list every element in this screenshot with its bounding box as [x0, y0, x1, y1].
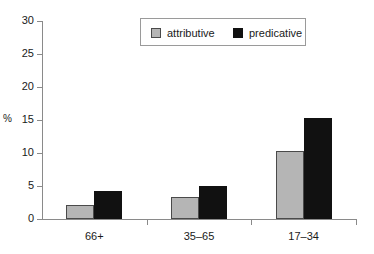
y-axis-tick-label: 10: [0, 147, 34, 158]
legend-entry-predicative: predicative: [233, 26, 302, 40]
x-axis-line: [42, 219, 356, 220]
x-axis-tick-label: 35–65: [147, 231, 252, 242]
legend: attributive predicative: [140, 18, 306, 46]
bar-predicative-17–34: [304, 118, 332, 219]
y-axis-tick-label: 25: [0, 48, 34, 59]
y-axis-tick-label: 5: [0, 180, 34, 191]
x-axis-tick-label: 17–34: [251, 231, 356, 242]
legend-swatch-predicative-icon: [233, 28, 243, 38]
legend-label-attributive: attributive: [167, 28, 215, 39]
x-axis-tick-label: 66+: [42, 231, 147, 242]
y-axis-tick: [37, 153, 42, 154]
x-axis-tick: [356, 219, 357, 225]
bar-attributive-35–65: [171, 197, 199, 219]
bar-chart: % 051015202530 66+35–6517–34 attributive…: [0, 0, 374, 254]
bar-attributive-66+: [66, 205, 94, 219]
y-axis-line: [42, 21, 43, 220]
legend-entry-attributive: attributive: [151, 26, 215, 40]
y-axis-tick: [37, 219, 42, 220]
y-axis-tick-label: 20: [0, 81, 34, 92]
y-axis-tick: [37, 186, 42, 187]
y-axis-tick: [37, 21, 42, 22]
x-axis-tick: [251, 219, 252, 225]
legend-label-predicative: predicative: [249, 28, 302, 39]
legend-swatch-attributive-icon: [151, 28, 161, 38]
y-axis-tick: [37, 54, 42, 55]
y-axis-tick: [37, 120, 42, 121]
bar-predicative-66+: [94, 191, 122, 219]
bar-predicative-35–65: [199, 186, 227, 219]
y-axis-tick-label: 15: [0, 114, 34, 125]
y-axis-tick: [37, 87, 42, 88]
y-axis-tick-label: 30: [0, 15, 34, 26]
x-axis-tick: [147, 219, 148, 225]
y-axis-tick-label: 0: [0, 213, 34, 224]
bar-attributive-17–34: [276, 151, 304, 219]
